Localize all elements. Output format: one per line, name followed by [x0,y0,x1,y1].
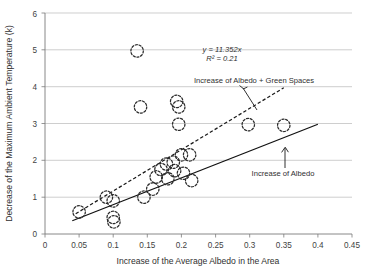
ytick-label-0: 0 [32,230,37,239]
data-point [73,206,85,218]
ytick-label-5: 5 [32,46,37,55]
xtick-label-0: 0 [43,241,48,250]
series-label-albedo-green-spaces: Increase of Albedo + Green Spaces [194,76,314,85]
r-squared-label: R² = 0.21 [206,54,237,63]
xtick-label-4: 0.2 [176,241,188,250]
data-point [131,45,143,57]
ytick-label-1: 1 [32,193,37,202]
data-markers [73,45,290,228]
x-axis-ticks: 0 0.05 0.1 0.15 0.2 0.25 0.3 0.35 0.4 0.… [43,234,361,250]
data-point [167,156,179,168]
leader-arrow-solid-icon [282,147,289,168]
x-axis-title: Increase of the Average Albedo in the Ar… [117,256,280,266]
data-point [173,118,185,130]
y-axis-title: Decrease of the Maximum Ambient Temperat… [4,25,14,222]
scatter-plot-svg: 0 1 2 3 4 5 6 0 0.05 0.1 0.15 0.2 0.25 [0,0,373,280]
data-point [278,119,290,131]
xtick-label-7: 0.35 [276,241,292,250]
data-point [242,118,254,130]
y-axis-ticks: 0 1 2 3 4 5 6 [32,10,45,240]
trendlines [72,88,318,221]
ytick-label-3: 3 [32,120,37,129]
xtick-label-5: 0.25 [208,241,224,250]
leader-arrow-dashed-icon [240,86,258,111]
data-point [185,174,197,186]
xtick-label-9: 0.45 [344,241,360,250]
equation-label: y = 11.352x [202,45,243,54]
ytick-label-6: 6 [32,10,37,19]
series-label-albedo: Increase of Albedo [252,169,315,178]
annotations: y = 11.352x R² = 0.21 Increase of Albedo… [194,45,315,178]
ytick-label-2: 2 [32,156,37,165]
data-point [168,164,180,176]
chart-figure: 0 1 2 3 4 5 6 0 0.05 0.1 0.15 0.2 0.25 [0,0,373,280]
xtick-label-6: 0.3 [244,241,256,250]
xtick-label-3: 0.15 [139,241,155,250]
ytick-label-4: 4 [32,83,37,92]
xtick-label-1: 0.05 [71,241,87,250]
xtick-label-2: 0.1 [108,241,120,250]
data-point [134,101,146,113]
xtick-label-8: 0.4 [312,241,324,250]
